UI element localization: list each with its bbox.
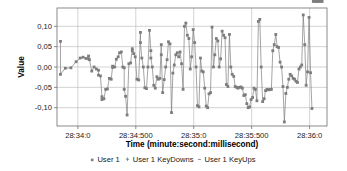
data-point [255, 99, 258, 102]
data-point [179, 51, 182, 54]
x-tick-label: 28:35:0 [181, 131, 206, 140]
data-point [59, 73, 62, 76]
data-point [120, 51, 123, 54]
data-point [290, 75, 293, 78]
data-point [309, 71, 312, 74]
data-point [154, 87, 157, 90]
data-point [192, 28, 195, 31]
data-point [85, 57, 88, 60]
data-point [169, 42, 172, 45]
data-point [99, 75, 102, 78]
data-point [213, 53, 216, 56]
data-point [149, 57, 152, 60]
data-point [139, 31, 142, 34]
data-point [82, 56, 85, 59]
data-point [142, 66, 145, 69]
data-point [59, 40, 62, 43]
x-tick-label: 28:34:0 [65, 131, 90, 140]
data-point [159, 77, 162, 80]
legend-marker-square [91, 159, 94, 162]
data-point [103, 97, 106, 100]
legend-entry: User 1 KeyUps [198, 155, 256, 164]
data-point [203, 87, 206, 90]
data-point [271, 49, 274, 52]
data-point [260, 66, 263, 69]
data-point [248, 105, 251, 108]
y-tick-marks [54, 26, 57, 107]
data-point [123, 66, 126, 69]
y-tick-label: -0,05 [35, 83, 52, 92]
data-point [70, 66, 73, 69]
data-point [180, 62, 183, 65]
data-point [189, 68, 192, 71]
data-point [321, 0, 324, 3]
data-point [134, 55, 137, 58]
data-point [186, 34, 189, 37]
data-point [270, 88, 273, 91]
data-point [113, 66, 116, 69]
data-point [244, 93, 247, 96]
data-point [171, 72, 174, 75]
data-point [251, 96, 254, 99]
legend-label: User 1 KeyDowns [133, 155, 194, 164]
data-point [206, 106, 209, 109]
data-point [163, 78, 166, 81]
data-point [149, 49, 152, 52]
data-point [164, 66, 167, 69]
data-point [160, 53, 163, 56]
x-axis-title: Time (minute:second:millisecond) [126, 140, 259, 149]
time-series-chart: 0,100,050,00-0,05-0,10 28:34:028:34:5002… [0, 0, 347, 171]
data-point [263, 97, 266, 100]
y-axis-title: Value [17, 56, 26, 78]
data-point [282, 85, 285, 88]
data-point [287, 78, 290, 81]
data-point [126, 114, 129, 117]
data-point [198, 105, 201, 108]
data-point [261, 100, 264, 103]
data-point [199, 57, 202, 60]
data-point [279, 61, 282, 64]
legend-marker-plus [126, 158, 129, 161]
data-point [117, 55, 120, 58]
data-point [280, 66, 283, 69]
data-point [88, 58, 91, 61]
data-point [137, 79, 140, 82]
data-point [140, 57, 143, 60]
x-tick-labels: 28:34:028:34:50028:35:028:35:50028:36:0 [65, 131, 322, 140]
data-point [64, 67, 67, 70]
data-point [222, 34, 225, 37]
chart-legend: User 1User 1 KeyDownsUser 1 KeyUps [91, 155, 256, 164]
data-point [229, 66, 232, 69]
data-point [296, 81, 299, 84]
data-point [277, 46, 280, 49]
legend-label: User 1 [97, 155, 119, 164]
data-point [286, 86, 289, 89]
y-tick-label: 0,00 [37, 63, 52, 72]
data-point [170, 111, 173, 114]
data-point [79, 57, 82, 60]
data-point [311, 107, 314, 110]
data-point [284, 92, 287, 95]
data-point [227, 85, 230, 88]
data-point [211, 26, 214, 29]
data-point [195, 66, 198, 69]
data-point [106, 88, 109, 91]
data-point [110, 78, 113, 81]
data-point [155, 75, 158, 78]
data-point [184, 22, 187, 25]
y-tick-labels: 0,100,050,00-0,05-0,10 [35, 22, 52, 112]
x-tick-marks [78, 126, 310, 129]
data-point [166, 58, 169, 61]
data-point [177, 55, 180, 58]
data-point [145, 87, 148, 90]
chart-container: 0,100,050,00-0,05-0,10 28:34:028:34:5002… [0, 0, 347, 171]
data-point [132, 52, 135, 55]
data-point [212, 66, 215, 69]
y-tick-label: -0,10 [35, 103, 52, 112]
data-point [193, 41, 196, 44]
data-point [183, 25, 186, 28]
data-point [283, 121, 286, 124]
data-point [241, 87, 244, 90]
data-point [176, 51, 179, 54]
data-point [148, 29, 151, 32]
